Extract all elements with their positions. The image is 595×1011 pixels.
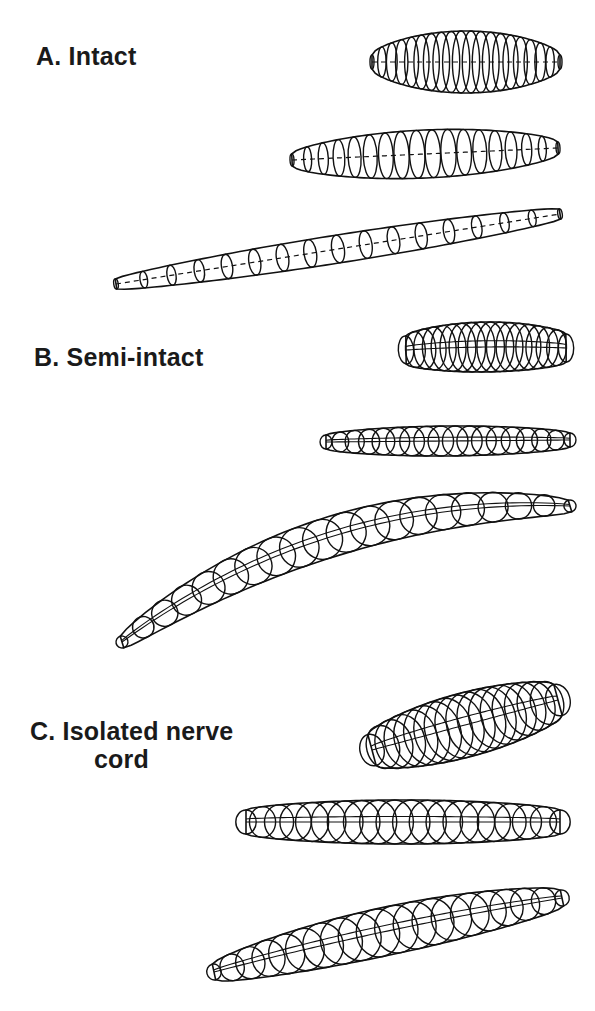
panel-c-title-line1: C. Isolated nerve: [30, 717, 233, 745]
panel-a-title: A. Intact: [36, 42, 136, 70]
nerve-cord-intermediate-shape: [236, 800, 570, 844]
panel-a-label: A. Intact: [36, 42, 136, 70]
body-outline: [115, 209, 561, 290]
nerve-cord-extended-shape: [205, 886, 571, 983]
body-axis-secondary: [122, 503, 570, 641]
semi-intact-contracted-shape: [397, 322, 573, 372]
intact-contracted-shape: [370, 31, 562, 93]
intact-intermediate-shape: [290, 129, 561, 179]
panel-c-title-line2: cord: [30, 745, 233, 773]
body-axis: [116, 214, 560, 284]
segment-ring: [527, 210, 537, 228]
semi-intact-extended-shape: [114, 491, 578, 650]
body-axis: [214, 898, 562, 972]
segment-ring: [302, 239, 319, 268]
body-axis: [122, 506, 570, 642]
nerve-cord-contracted-shape: [356, 677, 573, 773]
intact-extended-shape: [113, 209, 563, 290]
segment-ring: [498, 212, 510, 233]
larva-shape-figure: [0, 0, 595, 1011]
body-axis: [326, 440, 570, 442]
semi-intact-intermediate-shape: [320, 426, 576, 456]
body-axis: [372, 700, 558, 750]
body-outline: [120, 493, 571, 648]
segment-ring: [274, 243, 290, 272]
panel-b-title: B. Semi-intact: [34, 343, 204, 371]
panel-c-label: C. Isolated nerve cord: [30, 717, 233, 773]
panel-b-label: B. Semi-intact: [34, 343, 204, 371]
segment-ring: [470, 215, 484, 239]
segment-ring: [330, 234, 347, 264]
segment-ring: [247, 248, 263, 276]
